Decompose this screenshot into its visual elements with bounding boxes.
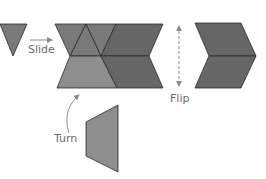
turned-trapezoid: [86, 105, 118, 172]
flipped-chevron-top: [195, 23, 256, 56]
flip-label: Flip: [170, 93, 189, 104]
slide-label: Slide: [28, 44, 55, 55]
transformation-diagram: Slide Flip Turn: [0, 0, 266, 179]
turn-arrow: [67, 95, 79, 133]
flipped-chevron: [195, 23, 256, 88]
single-triangle: [0, 24, 27, 56]
turn-label: Turn: [54, 133, 77, 144]
flipped-chevron-bottom: [195, 56, 256, 88]
diagram-svg: [0, 0, 266, 179]
composite-shape: [55, 24, 163, 88]
